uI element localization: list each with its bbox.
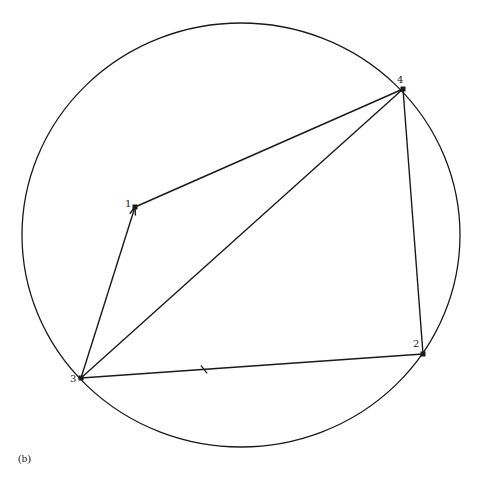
diagram-canvas: 1234 (b): [0, 0, 478, 479]
node-1: 1: [125, 198, 138, 210]
node-4: 4: [397, 74, 406, 92]
node-marker-icon: [133, 205, 138, 210]
edge-3-4: [81, 89, 403, 378]
edges-group: [81, 89, 423, 378]
node-label: 4: [397, 74, 403, 85]
node-label: 1: [125, 198, 131, 209]
edge-1-4: [135, 89, 403, 207]
edge-4-2: [403, 89, 423, 354]
node-label: 2: [413, 338, 419, 349]
node-marker-icon: [401, 87, 406, 92]
node-marker-icon: [421, 352, 426, 357]
edge-3-1: [81, 207, 135, 378]
figure-caption: (b): [18, 452, 31, 465]
node-marker-icon: [79, 376, 84, 381]
edge-3-2: [81, 354, 423, 378]
node-label: 3: [70, 373, 76, 384]
